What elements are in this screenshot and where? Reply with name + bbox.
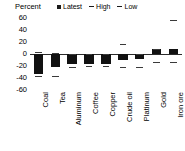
x-axis-tick-label: Coal bbox=[42, 92, 50, 107]
x-axis-tick-label: Iron ore bbox=[177, 92, 185, 118]
chart-legend: Latest High Low bbox=[57, 3, 137, 11]
marker-high[interactable] bbox=[52, 53, 59, 54]
bar-latest[interactable] bbox=[51, 54, 60, 67]
y-axis-tick-label: -60 bbox=[5, 86, 27, 94]
legend-item-latest[interactable]: Latest bbox=[57, 3, 82, 11]
bar-group bbox=[114, 18, 131, 90]
bar-group bbox=[131, 18, 148, 90]
marker-low[interactable] bbox=[52, 76, 59, 77]
x-axis-tick-label: Copper bbox=[109, 92, 117, 117]
plot-area: 6040200-20-40-60 bbox=[30, 18, 182, 90]
bar-group bbox=[64, 18, 81, 90]
marker-low[interactable] bbox=[35, 76, 42, 77]
marker-high[interactable] bbox=[69, 54, 76, 55]
bar-latest[interactable] bbox=[67, 54, 76, 64]
legend-label-latest: Latest bbox=[63, 3, 82, 11]
y-axis-tick-label: -40 bbox=[5, 74, 27, 82]
filled-square-icon bbox=[57, 5, 61, 9]
marker-high[interactable] bbox=[120, 44, 127, 45]
y-axis-tick-label: -20 bbox=[5, 62, 27, 70]
y-axis-tick-label: 40 bbox=[5, 26, 27, 34]
y-axis-tick-label: 0 bbox=[5, 50, 27, 58]
legend-item-high[interactable]: High bbox=[89, 3, 110, 11]
legend-item-low[interactable]: Low bbox=[117, 3, 137, 11]
legend-label-high: High bbox=[96, 3, 110, 11]
marker-high[interactable] bbox=[170, 20, 177, 21]
x-axis-tick-label: Aluminum bbox=[75, 92, 83, 125]
y-axis-tick-label: 20 bbox=[5, 38, 27, 46]
marker-low[interactable] bbox=[69, 67, 76, 68]
marker-low[interactable] bbox=[153, 62, 160, 63]
bar-group bbox=[98, 18, 115, 90]
y-axis-tick-label: 60 bbox=[5, 14, 27, 22]
y-axis-unit-title: Percent bbox=[15, 2, 41, 11]
chart-container: Percent Latest High Low 6040200-20-40-60… bbox=[0, 0, 185, 151]
x-axis-category-labels: CoalTeaAluminumCoffeeCopperCrude oilPlat… bbox=[30, 92, 182, 150]
marker-high[interactable] bbox=[86, 54, 93, 55]
bar-latest[interactable] bbox=[118, 54, 127, 60]
bar-group bbox=[30, 18, 47, 90]
marker-low[interactable] bbox=[120, 67, 127, 68]
bar-latest[interactable] bbox=[101, 54, 110, 64]
marker-high[interactable] bbox=[153, 49, 160, 50]
dash-icon bbox=[117, 6, 122, 7]
legend-label-low: Low bbox=[124, 3, 137, 11]
x-axis-tick-label: Tea bbox=[59, 92, 67, 104]
bar-latest[interactable] bbox=[34, 54, 43, 74]
bar-group bbox=[148, 18, 165, 90]
marker-high[interactable] bbox=[136, 54, 143, 55]
marker-low[interactable] bbox=[86, 66, 93, 67]
bar-group bbox=[47, 18, 64, 90]
bar-group bbox=[81, 18, 98, 90]
marker-high[interactable] bbox=[35, 52, 42, 53]
marker-low[interactable] bbox=[136, 67, 143, 68]
x-axis-tick-label: Crude oil bbox=[126, 92, 134, 122]
x-axis-tick-label: Coffee bbox=[92, 92, 100, 114]
bar-group bbox=[165, 18, 182, 90]
marker-high[interactable] bbox=[103, 54, 110, 55]
bar-latest[interactable] bbox=[84, 54, 93, 64]
dash-icon bbox=[89, 6, 94, 7]
x-axis-tick-label: Gold bbox=[160, 92, 168, 108]
x-axis-tick-label: Platinum bbox=[143, 92, 151, 121]
marker-low[interactable] bbox=[103, 66, 110, 67]
marker-low[interactable] bbox=[170, 62, 177, 63]
bar-latest[interactable] bbox=[169, 49, 178, 54]
